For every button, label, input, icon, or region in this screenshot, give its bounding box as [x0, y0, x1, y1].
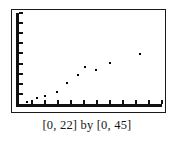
y-axis-tick: [19, 12, 23, 14]
x-axis-tick: [135, 100, 137, 104]
data-point: [56, 91, 58, 93]
x-axis: [16, 104, 162, 107]
y-axis-tick: [19, 93, 23, 95]
data-point: [77, 74, 79, 76]
calculator-screen-frame: [11, 9, 166, 113]
x-axis-tick: [161, 100, 163, 104]
x-axis-tick: [57, 100, 59, 104]
x-axis-tick: [96, 100, 98, 104]
y-axis-tick: [19, 73, 23, 75]
x-axis-tick: [31, 100, 33, 104]
data-point: [109, 62, 111, 64]
y-axis-tick: [19, 32, 23, 34]
data-point: [84, 66, 86, 68]
data-point: [36, 97, 38, 99]
x-axis-tick: [70, 100, 72, 104]
y-axis-tick: [19, 42, 23, 44]
viewing-window-caption: [0, 22] by [0, 45]: [0, 118, 174, 133]
y-axis-tick: [19, 22, 23, 24]
data-point: [139, 53, 141, 55]
data-point: [66, 82, 68, 84]
data-point: [95, 69, 97, 71]
x-axis-tick: [44, 100, 46, 104]
x-axis-tick: [148, 100, 150, 104]
scatter-plot-figure: [0, 22] by [0, 45]: [0, 0, 174, 141]
y-axis-tick: [19, 52, 23, 54]
data-point: [44, 95, 46, 97]
x-axis-tick: [83, 100, 85, 104]
y-axis-tick: [19, 63, 23, 65]
y-axis-tick: [19, 83, 23, 85]
plot-area: [13, 11, 164, 111]
data-point: [26, 101, 28, 103]
x-axis-tick: [109, 100, 111, 104]
x-axis-tick: [122, 100, 124, 104]
